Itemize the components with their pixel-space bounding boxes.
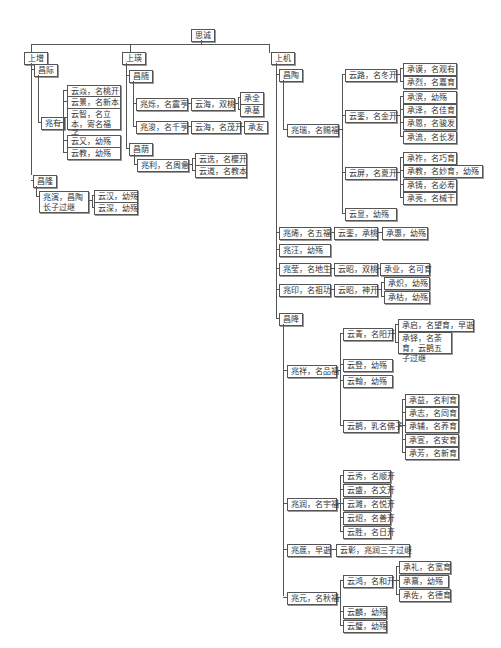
node-zhaoyan: 兆演，昌陶长子过继 bbox=[39, 191, 89, 213]
node-chengfang: 承芳，名新育 bbox=[405, 447, 459, 460]
node-chengji: 承基 bbox=[240, 104, 264, 117]
node-yundeng: 云登，幼殇 bbox=[343, 359, 393, 372]
connector bbox=[31, 44, 269, 45]
connector bbox=[192, 158, 193, 170]
connector bbox=[276, 63, 277, 318]
node-zhaorun: 兆润，名宇福 bbox=[287, 498, 337, 511]
node-yunzhao-1: 云昭，双桃 bbox=[334, 263, 378, 276]
node-yunzhao-2: 云昭，神开 bbox=[334, 284, 378, 297]
node-chengjiao: 承教，名妙育，幼殇 bbox=[403, 165, 483, 178]
connector bbox=[283, 80, 284, 129]
connector bbox=[342, 74, 343, 213]
node-yunsui: 云濉，名悦开 bbox=[343, 498, 391, 511]
node-zhaoyuan: 兆元，名秋福 bbox=[287, 592, 337, 605]
node-yunsheng-2: 云胜，名日开 bbox=[343, 526, 391, 539]
connector bbox=[238, 97, 239, 109]
node-chengchi: 承炽，幼殇 bbox=[384, 277, 430, 290]
node-chengxuan: 承宣，名安育 bbox=[405, 434, 459, 447]
node-zhaoshuo: 兆烁，名震亨 bbox=[136, 98, 188, 111]
node-zhaoyou: 兆有 bbox=[41, 117, 65, 130]
node-chengfu: 承辅，名养育 bbox=[405, 420, 459, 433]
node-shangji: 上机 bbox=[271, 52, 295, 65]
node-yunlu: 云路，名冬开 bbox=[345, 69, 397, 82]
node-yunhan-2: 云翰，幼殇 bbox=[343, 375, 393, 388]
connector bbox=[400, 157, 401, 197]
node-chengen: 承恩，名骏发 bbox=[403, 117, 457, 130]
node-zhaoyu: 兆菧，早逝 bbox=[287, 544, 331, 557]
node-yunzhao-3: 云炤，名善开 bbox=[343, 512, 391, 525]
node-yunbi: 云璧，幼殇 bbox=[343, 620, 387, 633]
node-chengduo: 承铎，名荼育，云鹊五子过继 bbox=[398, 332, 452, 354]
connector bbox=[31, 63, 32, 175]
node-chengyou: 承友 bbox=[244, 121, 268, 134]
connector bbox=[340, 580, 341, 625]
node-chengzuo-2: 承佐，名德育 bbox=[399, 589, 451, 602]
node-yunluan-2: 云銮，承桃 bbox=[334, 227, 378, 240]
node-chengliu: 承流，名长发 bbox=[403, 131, 457, 144]
connector bbox=[400, 96, 401, 136]
node-zhaoying: 兆莹，名地生 bbox=[279, 263, 331, 276]
node-yunhong: 云鸿，名和开 bbox=[343, 575, 393, 588]
node-yunzhi: 云智，名立本，寄名福子 bbox=[67, 108, 121, 130]
node-zhaoxiang: 兆祥，名品福 bbox=[287, 365, 337, 378]
connector bbox=[269, 44, 270, 53]
node-yunluan: 云銮，名金开 bbox=[345, 110, 397, 123]
connector bbox=[381, 282, 382, 296]
node-chengye: 承业，名可育 bbox=[380, 263, 430, 276]
node-yunhai-1: 云海，双桃 bbox=[191, 98, 235, 111]
node-chengliang: 承亮，名械干 bbox=[403, 192, 457, 205]
node-zhaoxi: 兆烯，名五福 bbox=[279, 227, 331, 240]
node-zhaoli: 兆利，名周惫 bbox=[137, 159, 189, 172]
node-yunxiu: 云秀，名顺开 bbox=[343, 470, 391, 483]
node-chengyi: 承益，名利育 bbox=[405, 394, 459, 407]
node-chengze: 承泽，名佳育 bbox=[403, 104, 457, 117]
node-yundao: 云道，名教本 bbox=[195, 165, 247, 178]
node-zhaoyin: 兆印，名祖功 bbox=[279, 284, 331, 297]
node-chengqi: 承启，名望育，早逝 bbox=[398, 319, 474, 332]
node-chenghui: 承惠，幼殇 bbox=[382, 227, 428, 240]
node-changyin: 昌荫 bbox=[129, 143, 153, 156]
connector bbox=[36, 186, 37, 196]
node-zhaorui: 兆瑞，名赐福 bbox=[287, 124, 339, 137]
node-yunhai-2: 云海，名茂开 bbox=[191, 121, 241, 134]
node-yunshen: 云深，幼殇 bbox=[94, 202, 138, 215]
connector bbox=[134, 154, 135, 164]
node-yunzhang: 云彰，兆润三子过继 bbox=[336, 544, 410, 557]
node-chengzhi: 承志，名同育 bbox=[405, 407, 459, 420]
node-zhaojun: 兆浚，名千亨 bbox=[136, 121, 188, 134]
node-yunping: 云屏，名夏开 bbox=[345, 167, 397, 180]
connector bbox=[340, 333, 341, 425]
node-chengli: 承礼，名宽育 bbox=[399, 561, 451, 574]
node-chengzhu: 承铸，名必寿 bbox=[403, 179, 457, 192]
connector bbox=[395, 324, 396, 342]
node-yunqing: 云青，名阳开 bbox=[343, 328, 393, 341]
node-yunjiao: 云教，幼殇 bbox=[67, 147, 121, 160]
node-yunlin: 云麟，幼殇 bbox=[343, 606, 387, 619]
node-yunsheng: 云盛，名文开 bbox=[343, 484, 391, 497]
connector bbox=[283, 324, 284, 596]
node-chengxi: 承熹，幼殇 bbox=[399, 575, 449, 588]
connector bbox=[63, 90, 64, 152]
connector bbox=[92, 195, 93, 207]
node-chengku: 承枯，幼殇 bbox=[384, 291, 430, 304]
node-chengbin: 承滨，幼殇 bbox=[403, 91, 457, 104]
root-node: 思诚 bbox=[191, 29, 215, 42]
node-zhaowang: 兆汪，幼殇 bbox=[279, 244, 331, 257]
node-chenglie: 承烈，名嘉育 bbox=[403, 76, 457, 89]
connector bbox=[38, 75, 39, 122]
node-chengmo: 承谟，名观有 bbox=[403, 63, 457, 76]
node-chengzuo: 承祚，名巧育 bbox=[403, 152, 457, 165]
connector bbox=[400, 68, 401, 81]
node-yunxian: 云显，幼殇 bbox=[345, 208, 397, 221]
node-yunque: 云鹊，乳名佛子 bbox=[343, 420, 399, 433]
